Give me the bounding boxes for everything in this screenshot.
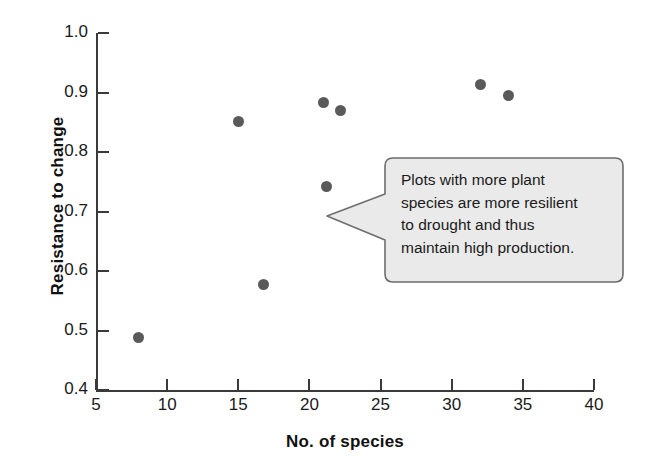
x-tick-15 xyxy=(237,379,239,390)
x-axis-line xyxy=(96,390,594,392)
y-tick-label-0.8: 0.8 xyxy=(42,141,88,161)
data-point xyxy=(318,97,329,108)
callout-line: to drought and thus xyxy=(401,214,615,237)
callout-line: species are more resilient xyxy=(401,192,615,215)
x-tick-10 xyxy=(166,379,168,390)
x-axis-label: No. of species xyxy=(96,432,594,452)
y-tick-0.6 xyxy=(98,270,109,272)
y-axis-line xyxy=(96,33,98,392)
callout-text: Plots with more plantspecies are more re… xyxy=(401,169,615,259)
data-point xyxy=(503,90,514,101)
x-tick-30 xyxy=(451,379,453,390)
y-tick-label-0.4: 0.4 xyxy=(42,379,88,399)
x-tick-label-35: 35 xyxy=(498,395,548,415)
y-tick-0.4 xyxy=(98,389,109,391)
y-tick-0.9 xyxy=(98,92,109,94)
x-tick-40 xyxy=(593,379,595,390)
x-tick-label-15: 15 xyxy=(213,395,263,415)
x-tick-label-40: 40 xyxy=(569,395,619,415)
y-tick-label-0.6: 0.6 xyxy=(42,260,88,280)
y-tick-0.5 xyxy=(98,330,109,332)
y-tick-0.7 xyxy=(98,211,109,213)
x-tick-label-10: 10 xyxy=(142,395,192,415)
callout-line: maintain high production. xyxy=(401,237,615,260)
data-point xyxy=(475,79,486,90)
callout-line: Plots with more plant xyxy=(401,169,615,192)
data-point xyxy=(335,105,346,116)
data-point xyxy=(233,116,244,127)
callout-annotation: Plots with more plantspecies are more re… xyxy=(385,158,623,284)
y-tick-0.8 xyxy=(98,151,109,153)
y-tick-label-0.5: 0.5 xyxy=(42,320,88,340)
y-tick-1.0 xyxy=(98,32,109,34)
data-point xyxy=(133,332,144,343)
y-tick-label-1.0: 1.0 xyxy=(42,22,88,42)
y-tick-label-0.7: 0.7 xyxy=(42,201,88,221)
x-tick-35 xyxy=(522,379,524,390)
x-tick-25 xyxy=(380,379,382,390)
data-point xyxy=(258,279,269,290)
x-tick-5 xyxy=(95,379,97,390)
y-tick-label-0.9: 0.9 xyxy=(42,82,88,102)
x-tick-20 xyxy=(308,379,310,390)
x-tick-label-30: 30 xyxy=(427,395,477,415)
scatter-chart-figure: Resistance to change No. of species 5101… xyxy=(0,0,651,463)
x-tick-label-25: 25 xyxy=(356,395,406,415)
x-tick-label-20: 20 xyxy=(284,395,334,415)
